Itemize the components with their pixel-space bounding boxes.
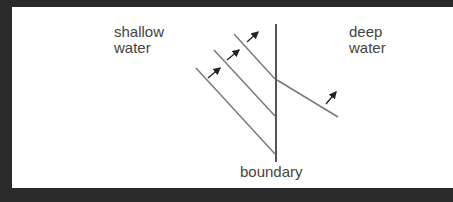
wavefront-3 [234,34,275,79]
direction-arrow-3 [247,32,258,42]
boundary-label: boundary [240,164,303,180]
wavefront-1 [196,68,275,154]
wavefront-2 [214,50,275,116]
direction-arrow-refracted [326,92,336,104]
shallow-word: shallow [114,24,164,40]
direction-arrow-2 [227,50,239,60]
shallow-water-label: shallow water [114,24,164,56]
refracted-wavefront [277,80,338,117]
deep-water-label: deep water [349,24,386,56]
deep-word: deep [349,24,386,40]
water-word: water [349,40,386,56]
direction-arrow-1 [208,68,220,78]
water-word: water [114,40,164,56]
